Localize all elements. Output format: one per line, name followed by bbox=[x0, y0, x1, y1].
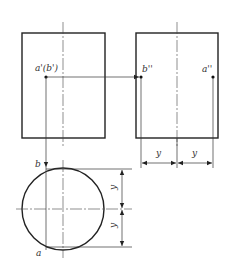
top-view: b a bbox=[16, 159, 132, 258]
label-a-double-prime: a'' bbox=[202, 64, 212, 74]
vertical-dimensions: y y bbox=[108, 170, 122, 246]
dim-label-y-right: y bbox=[191, 148, 198, 158]
label-a-prime-b-prime: a'(b') bbox=[35, 63, 59, 73]
label-b-double-prime: b'' bbox=[142, 64, 153, 74]
point-b-double-prime bbox=[139, 75, 142, 78]
dim-label-y-left: y bbox=[155, 148, 162, 158]
horizontal-dimensions: y y bbox=[141, 138, 213, 168]
projection-diagram: a'(b') b'' a'' b a y y y bbox=[0, 0, 231, 273]
point-a-double-prime bbox=[211, 75, 214, 78]
dim-label-y-bottom: y bbox=[108, 222, 118, 229]
label-b: b bbox=[35, 159, 41, 169]
front-view: a'(b') bbox=[22, 22, 105, 146]
side-view: b'' a'' bbox=[136, 22, 218, 146]
label-a: a bbox=[36, 248, 41, 258]
dim-label-y-top: y bbox=[108, 184, 118, 191]
front-view-outline bbox=[22, 33, 105, 138]
